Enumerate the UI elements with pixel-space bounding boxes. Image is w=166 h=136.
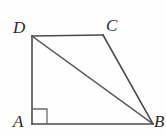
segment-DB-diagonal xyxy=(32,36,153,124)
geometry-figure: D C A B xyxy=(0,0,166,136)
segment-DC xyxy=(32,35,103,36)
segment-CB xyxy=(103,35,153,124)
vertex-label-C: C xyxy=(106,17,117,34)
right-angle-marker-A xyxy=(32,109,47,124)
vertex-label-B: B xyxy=(154,113,164,130)
vertex-label-A: A xyxy=(13,113,23,130)
vertex-label-D: D xyxy=(13,19,25,36)
